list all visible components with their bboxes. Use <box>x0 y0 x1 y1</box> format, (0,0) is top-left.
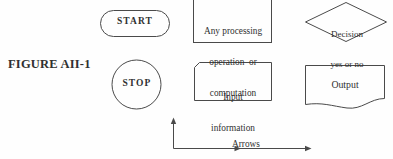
legend-arrows-label: Arrows indicate flow of directions <box>178 118 314 159</box>
decision-label-line-1: Decision <box>319 29 375 39</box>
figure-canvas: FIGURE AII-1 START STOP Any processing o… <box>0 0 393 159</box>
decision-label-line-2: yes or no <box>319 59 375 69</box>
input-label-line-1: Input <box>194 92 272 102</box>
stop-terminator-label: STOP <box>110 78 164 89</box>
process-label-line-1: Any processing <box>193 26 273 36</box>
start-terminator-label: START <box>100 16 170 27</box>
legend-vertical-arrow-head-icon <box>171 118 176 125</box>
process-label-line-2: operation or <box>193 57 273 67</box>
output-document-label: Output <box>305 80 385 91</box>
legend-arrows-line-1: Arrows <box>178 139 314 149</box>
figure-caption-label: FIGURE AII-1 <box>8 57 94 71</box>
decision-diamond-label: Decision yes or no <box>319 9 375 90</box>
